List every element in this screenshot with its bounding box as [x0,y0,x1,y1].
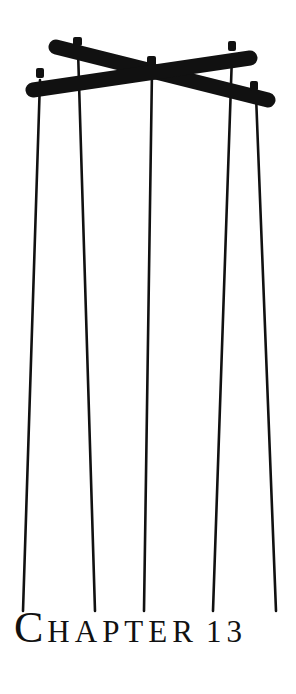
marionette-control-illustration [0,0,296,694]
chapter-initial: C [14,603,47,652]
chapter-heading: CHAPTER 13 [14,606,294,654]
chapter-word: HAPTER [47,614,198,649]
chapter-number: 13 [206,614,247,649]
marionette-strings [23,50,276,611]
